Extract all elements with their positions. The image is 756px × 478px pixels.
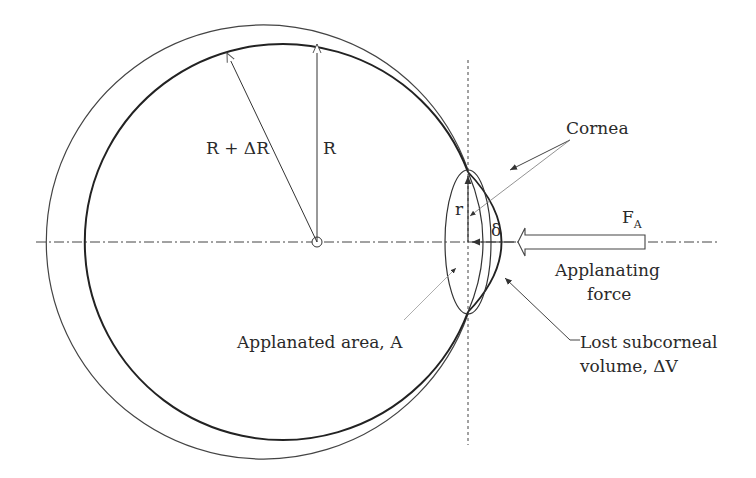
cornea-leader-2 [470,140,570,216]
label-applanating-force-1: Applanating [555,260,660,281]
label-applanating-force-2: force [587,284,631,305]
label-R: R [323,138,336,159]
label-force-symbol: F [622,207,634,227]
applanating-force-arrow [518,228,645,256]
label-r: r [455,199,463,220]
cornea-leader-1 [510,140,570,170]
eye-diagram [0,0,756,478]
lost-volume-leader [505,278,580,340]
label-lost-volume-2: volume, ΔV [580,356,678,377]
label-r-plus-dr: R + ΔR [206,138,269,159]
label-force: FA [622,207,642,230]
label-force-subscript: A [634,218,642,231]
label-delta: δ [491,220,501,241]
applanated-area-leader [404,268,456,320]
label-lost-volume-1: Lost subcorneal [580,332,718,353]
label-applanated-area: Applanated area, A [237,332,402,353]
label-cornea: Cornea [566,118,629,139]
